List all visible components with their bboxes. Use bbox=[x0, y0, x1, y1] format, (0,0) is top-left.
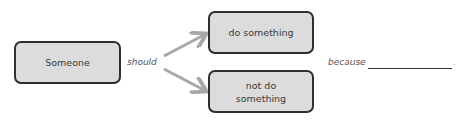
connector-label: should bbox=[127, 57, 157, 67]
option-do-something-box: do something bbox=[208, 11, 314, 54]
reason-blank-line[interactable] bbox=[368, 57, 452, 69]
option-bottom-text: not do something bbox=[232, 79, 290, 105]
subject-text: Someone bbox=[45, 56, 90, 69]
arrow-to-not-do-something bbox=[164, 69, 204, 90]
arrow-to-do-something bbox=[164, 35, 204, 56]
subject-box: Someone bbox=[14, 41, 121, 84]
end-punctuation: . bbox=[453, 57, 456, 67]
option-not-do-something-box: not do something bbox=[208, 70, 314, 113]
reason-label: because bbox=[328, 57, 366, 67]
option-top-text: do something bbox=[228, 26, 293, 39]
